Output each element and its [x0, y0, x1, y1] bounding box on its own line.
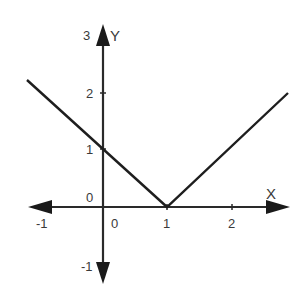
y-tick-label: 1	[86, 142, 93, 157]
y-tick-label: 2	[86, 86, 93, 101]
x-tick-label: -1	[36, 216, 48, 231]
y-axis-top-arrow-icon	[96, 24, 110, 46]
x-axis-left-arrow-icon	[28, 200, 52, 214]
x-axis-title: X	[266, 185, 276, 202]
y-axis-bottom-arrow-icon	[96, 262, 110, 284]
y-axis-title: Y	[110, 27, 120, 44]
x-tick-label: 2	[228, 216, 235, 231]
x-axis-right-arrow-icon	[266, 200, 290, 214]
y-tick-label: 0	[86, 190, 93, 205]
function-line	[27, 80, 288, 207]
x-axis	[28, 200, 290, 214]
tick-marks	[100, 93, 232, 210]
x-tick-label: 0	[111, 216, 118, 231]
y-tick-label: -1	[81, 259, 93, 274]
x-tick-label: 1	[163, 216, 170, 231]
y-tick-label: 3	[83, 28, 90, 43]
coordinate-plot: Y X -1 0 1 2 3 2 1 0 -1	[0, 0, 304, 299]
